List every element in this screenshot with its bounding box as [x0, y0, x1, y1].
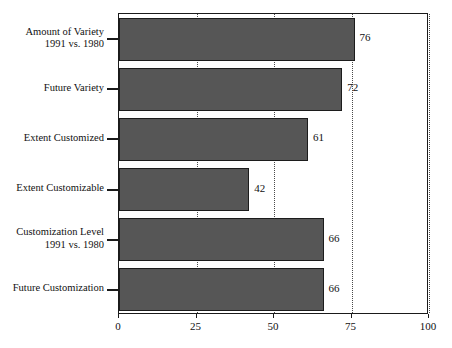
bar [119, 218, 324, 261]
category-label-amount-of-variety: Amount of Variety 1991 vs. 1980 [0, 26, 104, 51]
category-label-future-variety: Future Variety [0, 82, 104, 95]
category-label-extent-customizable: Extent Customizable [0, 182, 104, 195]
x-tick-50 [273, 314, 274, 318]
category-label-line1: Amount of Variety [25, 26, 104, 37]
category-tick [107, 88, 118, 90]
category-label-line1: Extent Customized [24, 132, 104, 143]
category-tick [107, 138, 118, 140]
category-label-extent-customized: Extent Customized [0, 132, 104, 145]
bar-value-label: 66 [329, 233, 340, 244]
category-tick [107, 38, 118, 40]
x-tick-label: 100 [420, 320, 437, 333]
x-tick-75 [351, 314, 352, 318]
bar-chart: Amount of Variety 1991 vs. 1980 Future V… [0, 0, 452, 348]
bar [119, 18, 355, 61]
category-label-line1: Future Customization [13, 282, 104, 293]
category-label-line1: Extent Customizable [16, 182, 104, 193]
x-tick-100 [428, 314, 429, 318]
x-tick-label: 50 [268, 320, 279, 333]
category-label-line1: Future Variety [44, 82, 104, 93]
plot-frame [118, 13, 428, 314]
x-tick-label: 25 [190, 320, 201, 333]
category-label-line2: 1991 vs. 1980 [0, 239, 104, 252]
x-tick-label: 75 [345, 320, 356, 333]
bar-value-label: 76 [360, 32, 371, 43]
category-label-future-customization: Future Customization [0, 282, 104, 295]
bar [119, 118, 308, 161]
category-label-customization-level: Customization Level 1991 vs. 1980 [0, 226, 104, 251]
bar [119, 68, 342, 111]
category-label-line1: Customization Level [16, 226, 104, 237]
x-tick-0 [118, 314, 119, 318]
bar-value-label: 61 [313, 132, 324, 143]
category-axis-labels: Amount of Variety 1991 vs. 1980 Future V… [0, 13, 104, 314]
category-tick [107, 189, 118, 191]
gridline-100 [429, 14, 430, 313]
x-tick-label: 0 [115, 320, 121, 333]
x-tick-25 [196, 314, 197, 318]
plot-area [119, 14, 427, 313]
bar-value-label: 72 [347, 82, 358, 93]
bar [119, 268, 324, 311]
category-tick [107, 289, 118, 291]
category-label-line2: 1991 vs. 1980 [0, 38, 104, 51]
category-tick [107, 239, 118, 241]
bar-value-label: 42 [254, 183, 265, 194]
bar [119, 168, 249, 211]
bar-value-label: 66 [329, 283, 340, 294]
